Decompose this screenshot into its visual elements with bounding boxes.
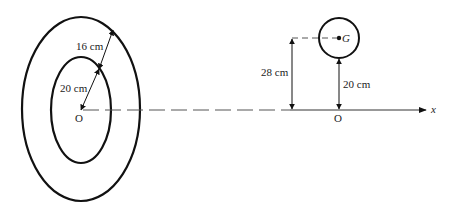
centroid-point: [337, 36, 341, 40]
inner-radius-label: 20 cm: [60, 82, 88, 94]
ring-figure: 16 cm 20 cm O: [22, 17, 140, 201]
x-axis-label: x: [430, 103, 436, 115]
diagram-canvas: 16 cm 20 cm O x G 28 cm 20 cm O: [0, 0, 454, 215]
centroid-figure: G 28 cm 20 cm O: [261, 18, 371, 124]
gap-20-label: 20 cm: [343, 78, 371, 90]
centroid-label: G: [342, 32, 350, 44]
origin-label-right: O: [334, 112, 342, 124]
outer-radius-label: 16 cm: [76, 40, 104, 52]
x-axis: x: [83, 103, 436, 115]
origin-label-left: O: [75, 112, 83, 124]
height-28-label: 28 cm: [261, 66, 289, 78]
